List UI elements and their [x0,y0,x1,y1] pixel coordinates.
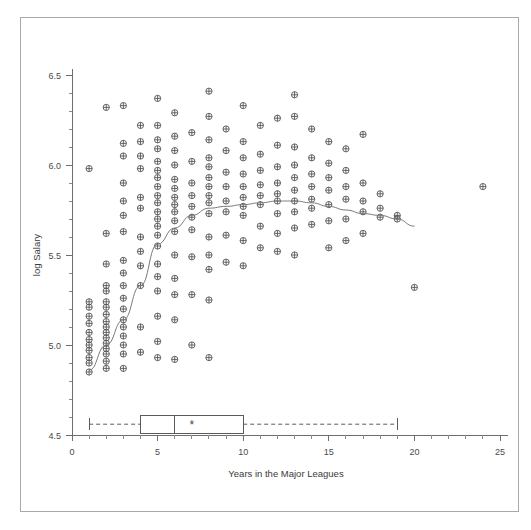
data-point [189,254,195,260]
data-point [206,113,212,119]
data-point [155,338,161,344]
data-point [86,304,92,310]
data-point [189,227,195,233]
data-point [223,184,229,190]
x-tick-label: 5 [155,447,160,457]
data-point [120,180,126,186]
data-point [360,230,366,236]
data-point [155,223,161,229]
data-point [155,184,161,190]
data-point [137,263,143,269]
data-point [326,218,332,224]
data-point [360,198,366,204]
data-point [206,88,212,94]
data-point [155,209,161,215]
y-tick-label: 6.0 [48,161,61,171]
data-point [240,103,246,109]
data-point [291,187,297,193]
data-point [137,194,143,200]
data-point [189,203,195,209]
data-point [206,184,212,190]
data-point [172,292,178,298]
data-point [137,166,143,172]
data-point [172,317,178,323]
x-tick-label: 20 [409,447,419,457]
data-point [155,261,161,267]
data-point [172,252,178,258]
data-point [240,212,246,218]
data-point [172,229,178,235]
data-point [103,365,109,371]
data-point [326,245,332,251]
data-point [274,248,280,254]
data-point [155,313,161,319]
data-point [360,131,366,137]
data-point [206,137,212,143]
data-point [103,288,109,294]
data-point [326,175,332,181]
data-point [206,355,212,361]
data-point [172,218,178,224]
x-tick-label: 25 [495,447,505,457]
data-point [223,198,229,204]
data-point [86,320,92,326]
data-point [206,211,212,217]
y-tick-label: 5.5 [48,251,61,261]
data-point [240,171,246,177]
data-point [223,148,229,154]
data-point [172,202,178,208]
data-point [120,153,126,159]
data-point [172,209,178,215]
data-point [137,324,143,330]
data-point [291,252,297,258]
data-point [223,126,229,132]
data-point [291,175,297,181]
axes [66,69,508,441]
data-point [103,311,109,317]
data-point [274,230,280,236]
data-point [155,146,161,152]
data-point [240,263,246,269]
data-point [137,205,143,211]
data-point [343,146,349,152]
data-point [240,238,246,244]
boxplot-layer: * [89,415,397,433]
data-point [120,140,126,146]
data-point [86,347,92,353]
data-point [257,245,263,251]
data-point [155,232,161,238]
data-point [206,234,212,240]
data-point [103,230,109,236]
data-point [120,212,126,218]
data-point [343,167,349,173]
data-point [172,133,178,139]
data-point [291,92,297,98]
data-point [189,193,195,199]
data-points-layer [86,88,486,375]
y-tick-label: 5.0 [48,341,61,351]
data-point [155,167,161,173]
data-point [120,342,126,348]
data-point [309,196,315,202]
data-point [480,184,486,190]
data-point [309,184,315,190]
data-point [120,295,126,301]
data-point [120,351,126,357]
data-point [189,130,195,136]
data-point [86,360,92,366]
data-point [172,148,178,154]
data-point [120,306,126,312]
data-point [103,351,109,357]
data-point [172,110,178,116]
data-point [343,216,349,222]
data-point [240,194,246,200]
data-point [326,160,332,166]
data-point [172,356,178,362]
data-point [206,200,212,206]
data-point [257,151,263,157]
data-point [343,238,349,244]
boxplot-mean-marker: * [190,418,195,432]
data-point [274,164,280,170]
data-point [155,137,161,143]
data-point [103,358,109,364]
